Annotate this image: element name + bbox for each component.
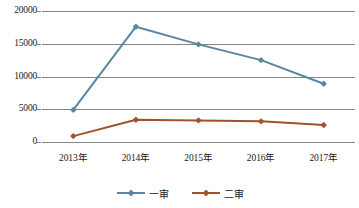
legend-item[interactable]: 二审 bbox=[191, 186, 244, 201]
y-tick-mark bbox=[37, 109, 41, 110]
legend-label: 一审 bbox=[149, 186, 169, 201]
legend-label: 二审 bbox=[224, 186, 244, 201]
y-axis: 05000100001500020000 bbox=[0, 11, 37, 142]
y-tick-label: 20000 bbox=[0, 6, 37, 16]
legend-item[interactable]: 一审 bbox=[116, 186, 169, 201]
data-point-marker bbox=[258, 57, 264, 63]
data-point-marker bbox=[70, 133, 76, 139]
gridline bbox=[42, 142, 355, 143]
data-point-marker bbox=[321, 81, 327, 87]
y-tick-mark bbox=[37, 142, 41, 143]
chart-legend: 一审二审 bbox=[0, 182, 359, 204]
y-tick-mark bbox=[37, 44, 41, 45]
data-point-marker bbox=[258, 118, 264, 124]
series-line bbox=[73, 27, 323, 110]
data-point-marker bbox=[195, 117, 201, 123]
series-一审 bbox=[70, 24, 327, 114]
series-二审 bbox=[70, 117, 327, 140]
data-point-marker bbox=[321, 122, 327, 128]
x-axis: 2013年2014年2015年2016年2017年 bbox=[42, 150, 355, 168]
x-tick-label: 2014年 bbox=[122, 150, 151, 164]
x-tick-label: 2015年 bbox=[184, 150, 213, 164]
y-tick-mark bbox=[37, 77, 41, 78]
series-layer bbox=[42, 11, 355, 142]
y-tick-label: 15000 bbox=[0, 39, 37, 49]
x-tick-label: 2016年 bbox=[247, 150, 276, 164]
plot-area bbox=[42, 11, 355, 142]
y-tick-label: 5000 bbox=[0, 105, 37, 115]
x-tick-label: 2013年 bbox=[59, 150, 88, 164]
data-point-marker bbox=[133, 117, 139, 123]
y-tick-label: 0 bbox=[0, 137, 37, 147]
x-tick-label: 2017年 bbox=[309, 150, 338, 164]
line-chart: 05000100001500020000 2013年2014年2015年2016… bbox=[0, 0, 359, 208]
y-tick-mark bbox=[37, 11, 41, 12]
legend-marker-icon bbox=[191, 187, 221, 199]
legend-marker-icon bbox=[116, 187, 146, 199]
y-tick-label: 10000 bbox=[0, 72, 37, 82]
data-point-marker bbox=[195, 41, 201, 47]
